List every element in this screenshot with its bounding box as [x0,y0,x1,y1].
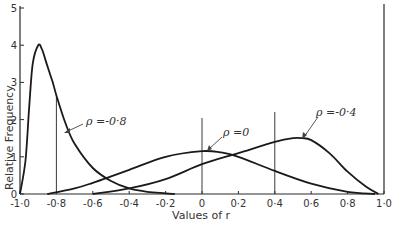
annotation-rho-0: ρ =0 [222,126,249,139]
y-axis-title: Relative Frequency [3,85,16,190]
arrow-rho-minus-0.4 [304,117,318,137]
y-tick-label: 5 [11,3,17,14]
x-tick-label: 1·0 [376,198,392,209]
x-tick-label: -1·0 [10,198,30,209]
annotation-rho-minus-0.4: ρ =-0·4 [315,106,356,119]
x-tick-label: -0·4 [119,198,139,209]
x-tick-label: 0·6 [303,198,319,209]
y-tick-label: 4 [11,40,17,51]
arrowhead-icon [207,145,212,151]
x-tick-label: -0·6 [83,198,103,209]
annotation-rho-minus-0.8: ρ =-0·8 [85,115,126,128]
x-tick-label: 0 [199,198,205,209]
curve-rho-minus-0.4 [93,138,379,194]
x-tick-label: 0·4 [267,198,283,209]
x-tick-label: 0·2 [230,198,246,209]
x-tick-label: 0·8 [340,198,356,209]
chart: 012345 -1·0-0·8-0·6-0·4-0·200·20·40·60·8… [0,0,393,225]
x-axis-title: Values of r [172,209,231,222]
arrow-rho-0 [209,137,222,149]
x-tick-label: -0·2 [156,198,176,209]
x-tick-label: -0·8 [47,198,67,209]
